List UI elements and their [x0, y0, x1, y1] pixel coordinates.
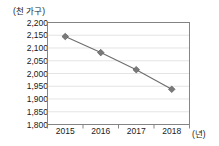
line-chart: (천 가구) 2,2002,1502,1002,0502,0001,9501,9… — [0, 0, 219, 146]
plot-area — [0, 0, 219, 146]
